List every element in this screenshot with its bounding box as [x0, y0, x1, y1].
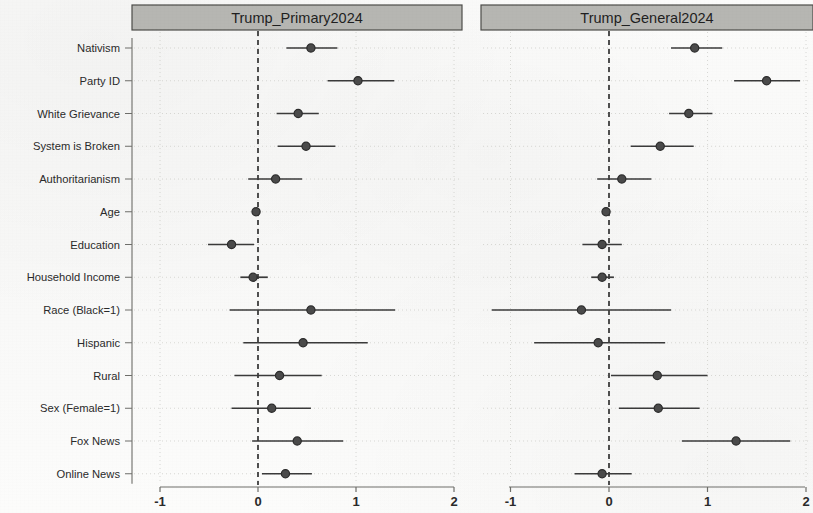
estimate-row-authoritarianism — [597, 175, 651, 183]
estimate-point — [302, 142, 310, 150]
estimate-point — [294, 109, 302, 117]
estimate-point — [732, 437, 740, 445]
estimate-point — [577, 306, 585, 314]
estimate-point — [685, 109, 693, 117]
estimate-point — [653, 371, 661, 379]
estimate-point — [691, 44, 699, 52]
estimate-point — [281, 470, 289, 478]
y-axis-label-rural: Rural — [93, 370, 120, 382]
y-axis-label-race-black-1: Race (Black=1) — [43, 304, 120, 316]
y-axis-label-sex-female-1: Sex (Female=1) — [40, 402, 120, 414]
y-axis-label-hispanic: Hispanic — [77, 337, 120, 349]
panel-general: -1012Trump_General2024 — [481, 5, 813, 509]
estimate-row-authoritarianism — [248, 175, 302, 183]
x-axis-tick-label: 2 — [802, 494, 809, 509]
estimate-point — [275, 371, 283, 379]
estimate-row-education — [208, 240, 254, 248]
y-axis-category-labels: NativismParty IDWhite GrievanceSystem is… — [27, 38, 132, 484]
x-axis-tick-label: 2 — [450, 494, 457, 509]
estimate-row-online-news — [575, 470, 632, 478]
estimate-row-hispanic — [243, 339, 367, 347]
estimate-point — [763, 77, 771, 85]
estimate-point — [307, 306, 315, 314]
panels-layer: -1012Trump_Primary2024-1012Trump_General… — [132, 5, 813, 509]
estimate-row-rural — [611, 371, 708, 379]
coefficient-plot: -1012Trump_Primary2024-1012Trump_General… — [0, 0, 813, 513]
estimate-point — [227, 240, 235, 248]
panel-title: Trump_Primary2024 — [231, 10, 363, 26]
estimate-point — [598, 273, 606, 281]
panel-content — [134, 31, 460, 485]
x-axis-tick-label: -1 — [505, 494, 517, 509]
y-axis-label-household-income: Household Income — [27, 271, 120, 283]
panel-title: Trump_General2024 — [580, 10, 713, 26]
estimate-row-fox-news — [252, 437, 343, 445]
estimate-point — [618, 175, 626, 183]
estimate-point — [272, 175, 280, 183]
estimate-point — [299, 339, 307, 347]
estimate-row-party-id — [328, 77, 395, 85]
estimate-row-fox-news — [682, 437, 790, 445]
estimate-point — [602, 208, 610, 216]
estimate-point — [268, 404, 276, 412]
panel-content — [483, 31, 811, 485]
y-axis-label-authoritarianism: Authoritarianism — [39, 173, 120, 185]
estimate-point — [293, 437, 301, 445]
estimate-row-white-grievance — [277, 109, 319, 117]
estimate-row-system-is-broken — [631, 142, 694, 150]
estimate-point — [598, 240, 606, 248]
y-axis-label-education: Education — [70, 239, 120, 251]
estimate-point — [656, 142, 664, 150]
estimate-point — [654, 404, 662, 412]
estimate-row-race-black-1 — [492, 306, 671, 314]
estimate-row-party-id — [734, 77, 800, 85]
estimate-row-household-income — [240, 273, 267, 281]
y-axis-label-white-grievance: White Grievance — [37, 108, 120, 120]
estimate-row-education — [582, 240, 621, 248]
estimate-row-nativism — [286, 44, 337, 52]
y-axis-label-party-id: Party ID — [80, 75, 120, 87]
y-axis-label-nativism: Nativism — [77, 42, 120, 54]
estimate-point — [307, 44, 315, 52]
estimate-row-rural — [234, 371, 321, 379]
estimate-row-sex-female-1 — [619, 404, 700, 412]
estimate-point — [598, 470, 606, 478]
estimate-row-nativism — [671, 44, 722, 52]
x-axis-tick-label: 1 — [352, 494, 359, 509]
estimate-row-household-income — [591, 273, 614, 281]
estimate-row-hispanic — [534, 339, 665, 347]
estimate-row-age — [602, 208, 610, 216]
y-axis-label-age: Age — [100, 206, 120, 218]
estimate-row-system-is-broken — [278, 142, 336, 150]
estimate-row-age — [252, 208, 260, 216]
y-axis-label-system-is-broken: System is Broken — [33, 140, 120, 152]
x-axis-tick-label: 0 — [605, 494, 612, 509]
estimate-row-white-grievance — [669, 109, 712, 117]
panel-primary: -1012Trump_Primary2024 — [132, 5, 462, 509]
y-axis-label-online-news: Online News — [57, 468, 121, 480]
y-axis-label-fox-news: Fox News — [70, 435, 120, 447]
x-axis-tick-label: 1 — [704, 494, 711, 509]
estimate-point — [594, 339, 602, 347]
estimate-point — [252, 208, 260, 216]
estimate-row-sex-female-1 — [232, 404, 311, 412]
estimate-row-race-black-1 — [230, 306, 396, 314]
estimate-point — [354, 77, 362, 85]
x-axis-tick-label: 0 — [254, 494, 261, 509]
x-axis-tick-label: -1 — [154, 494, 166, 509]
estimate-row-online-news — [262, 470, 312, 478]
estimate-point — [249, 273, 257, 281]
